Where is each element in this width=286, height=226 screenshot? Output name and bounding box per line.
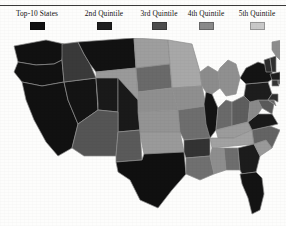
us-map-svg xyxy=(6,38,280,224)
legend-item-4th-quintile: 4th Quintile xyxy=(180,9,232,30)
state-AR xyxy=(184,138,210,158)
state-NE xyxy=(138,88,178,112)
legend-swatch-5th-quintile xyxy=(250,22,265,30)
state-UT xyxy=(96,78,118,112)
state-shapes xyxy=(14,38,280,214)
state-NM xyxy=(116,130,142,162)
state-PA xyxy=(244,82,272,102)
legend-swatch-2nd-quintile xyxy=(97,22,112,30)
state-OH xyxy=(232,96,250,126)
state-IN xyxy=(216,100,232,130)
legend-item-5th-quintile: 5th Quintile xyxy=(231,9,283,30)
legend-label-2nd-quintile: 2nd Quintile xyxy=(78,9,130,18)
legend-swatch-3rd-quintile xyxy=(152,22,167,30)
state-OK xyxy=(140,132,184,154)
legend-label-4th-quintile: 4th Quintile xyxy=(180,9,232,18)
state-WA xyxy=(14,40,64,65)
state-LA xyxy=(186,156,214,180)
state-AL xyxy=(224,148,240,170)
map-legend: Top-10 States 2nd Quintile 3rd Quintile … xyxy=(0,9,286,37)
legend-label-5th-quintile: 5th Quintile xyxy=(231,9,283,18)
legend-swatch-4th-quintile xyxy=(199,22,214,30)
legend-item-top-10-states: Top-10 States xyxy=(8,9,66,30)
legend-top-rule xyxy=(0,5,286,6)
state-MI xyxy=(218,60,240,96)
figure-choropleth-map: Top-10 States 2nd Quintile 3rd Quintile … xyxy=(0,0,286,226)
state-KS xyxy=(138,110,180,132)
legend-label-3rd-quintile: 3rd Quintile xyxy=(133,9,185,18)
legend-item-3rd-quintile: 3rd Quintile xyxy=(133,9,185,30)
us-choropleth-map xyxy=(6,38,280,224)
legend-item-2nd-quintile: 2nd Quintile xyxy=(78,9,130,30)
state-FL xyxy=(240,172,264,214)
state-SD xyxy=(136,64,172,92)
legend-swatch-top-10-states xyxy=(30,22,45,30)
state-RI xyxy=(278,80,280,84)
state-MN xyxy=(168,40,202,88)
legend-label-top-10-states: Top-10 States xyxy=(8,9,66,18)
state-ND xyxy=(134,38,170,68)
